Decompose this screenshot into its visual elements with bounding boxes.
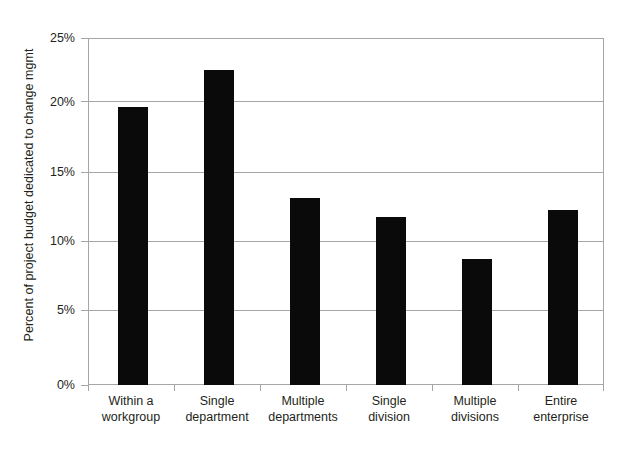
y-tick-mark-10 xyxy=(81,241,88,242)
x-axis-label-entire-enterprise: Entire enterprise xyxy=(518,393,604,425)
x-axis-label-line-2: division xyxy=(346,409,432,425)
x-tick-mark-0 xyxy=(88,385,89,391)
x-axis-label-line-1: Single xyxy=(346,393,432,409)
x-axis-label-single-division: Single division xyxy=(346,393,432,425)
bar-multiple-divisions xyxy=(462,259,492,385)
y-axis-title: Percent of project budget dedicated to c… xyxy=(18,0,40,390)
x-tick-mark-4 xyxy=(432,385,433,391)
y-tick-label-0: 0% xyxy=(33,379,75,391)
x-tick-mark-3 xyxy=(346,385,347,391)
y-tick-mark-25 xyxy=(81,38,88,39)
y-tick-mark-20 xyxy=(81,101,88,102)
x-axis-label-line-2: department xyxy=(174,409,260,425)
bar-single-division xyxy=(376,217,406,385)
x-axis-label-line-2: enterprise xyxy=(518,409,604,425)
x-axis-label-multiple-departments: Multiple departments xyxy=(260,393,346,425)
bars-layer xyxy=(88,38,604,385)
y-tick-mark-15 xyxy=(81,172,88,173)
bar-single-department xyxy=(204,70,234,385)
x-axis-label-line-2: departments xyxy=(260,409,346,425)
x-tick-mark-5 xyxy=(518,385,519,391)
x-axis-label-line-1: Single xyxy=(174,393,260,409)
x-axis-label-single-department: Single department xyxy=(174,393,260,425)
x-axis-label-within-a-workgroup: Within a workgroup xyxy=(88,393,174,425)
x-axis-label-line-1: Multiple xyxy=(260,393,346,409)
x-tick-mark-2 xyxy=(260,385,261,391)
y-tick-label-5: 5% xyxy=(33,304,75,316)
x-axis-label-line-2: workgroup xyxy=(88,409,174,425)
x-axis-label-line-1: Entire xyxy=(518,393,604,409)
x-axis-label-line-2: divisions xyxy=(432,409,518,425)
y-tick-mark-5 xyxy=(81,310,88,311)
bar-chart: Percent of project budget dedicated to c… xyxy=(0,0,625,451)
y-tick-label-20: 20% xyxy=(33,96,75,108)
x-axis-label-line-1: Multiple xyxy=(432,393,518,409)
x-axis-label-line-1: Within a xyxy=(88,393,174,409)
x-axis-label-multiple-divisions: Multiple divisions xyxy=(432,393,518,425)
y-tick-label-25: 25% xyxy=(33,32,75,44)
bar-within-a-workgroup xyxy=(118,107,148,385)
x-tick-mark-6 xyxy=(603,385,604,391)
bar-entire-enterprise xyxy=(548,210,578,385)
bar-multiple-departments xyxy=(290,198,320,385)
x-tick-mark-1 xyxy=(174,385,175,391)
y-tick-label-15: 15% xyxy=(33,166,75,178)
y-tick-label-10: 10% xyxy=(33,235,75,247)
y-tick-mark-0 xyxy=(81,385,88,386)
